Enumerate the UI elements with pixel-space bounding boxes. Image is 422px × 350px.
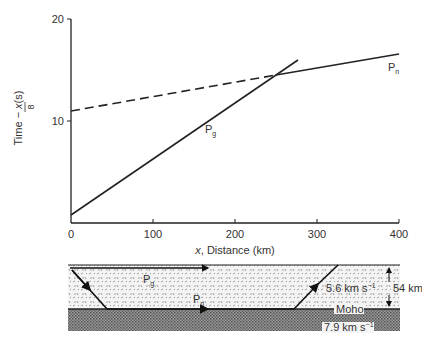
x-tick-label-300: 300 bbox=[308, 228, 326, 240]
x-tick-label-0: 0 bbox=[68, 228, 74, 240]
x-tick-label-200: 200 bbox=[226, 228, 244, 240]
svg-text:Time − x(s): Time − x(s) bbox=[12, 91, 24, 146]
pn-extrapolation-line bbox=[71, 75, 276, 111]
x-axis-label: x, Distance (km) bbox=[194, 244, 274, 256]
crust-thickness-label: 54 km bbox=[393, 282, 422, 294]
pg-label: Pg bbox=[205, 123, 216, 138]
moho-label: Moho bbox=[336, 303, 364, 315]
crust-cross-section: Pg Pn 5.6 km s−1 54 km Moho 7.9 km s−1 bbox=[68, 265, 422, 333]
pg-line bbox=[71, 60, 298, 215]
y-tick-label-10: 10 bbox=[52, 115, 64, 127]
svg-text:8: 8 bbox=[26, 104, 36, 109]
seismic-refraction-figure: 20 10 0 100 200 300 400 x, Distance (km)… bbox=[0, 0, 422, 350]
x-tick-label-100: 100 bbox=[144, 228, 162, 240]
travel-time-chart: 20 10 0 100 200 300 400 x, Distance (km)… bbox=[12, 13, 408, 256]
x-tick-label-400: 400 bbox=[390, 228, 408, 240]
y-axis-label: Time − x(s) 8 bbox=[12, 91, 36, 146]
pn-label: Pn bbox=[388, 61, 399, 75]
y-tick-label-20: 20 bbox=[52, 13, 64, 25]
pn-line bbox=[276, 54, 399, 75]
